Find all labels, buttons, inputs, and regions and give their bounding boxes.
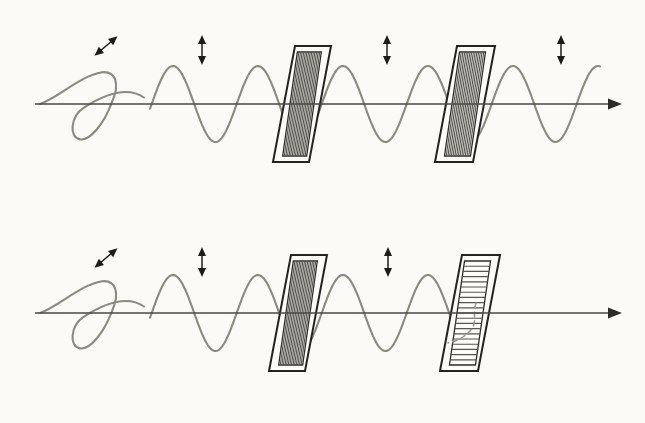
polarization-diagram [0, 0, 645, 423]
diagram-canvas [0, 0, 645, 423]
